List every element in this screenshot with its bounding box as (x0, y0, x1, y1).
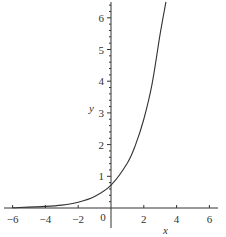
x-tick-label: 4 (174, 213, 180, 225)
x-tick-label: −2 (72, 213, 84, 225)
y-tick-label: 1 (99, 170, 105, 182)
axes (4, 2, 218, 228)
y-tick-label: 5 (99, 44, 105, 56)
x-axis-label: x (162, 224, 168, 236)
x-tick-label: −6 (7, 213, 19, 225)
x-tick-label: −4 (40, 213, 52, 225)
x-tick-label: 2 (141, 213, 147, 225)
x-tick-label: 0 (100, 211, 106, 223)
chart-plot: −6−4−20246123456 x y (0, 0, 226, 237)
y-tick-label: 2 (99, 139, 105, 151)
y-axis-label: y (88, 102, 94, 114)
y-tick-label: 4 (99, 75, 105, 87)
x-tick-label: 6 (207, 213, 213, 225)
tick-labels: −6−4−20246123456 (7, 12, 213, 225)
y-tick-label: 3 (99, 107, 105, 119)
y-tick-label: 6 (99, 12, 105, 24)
